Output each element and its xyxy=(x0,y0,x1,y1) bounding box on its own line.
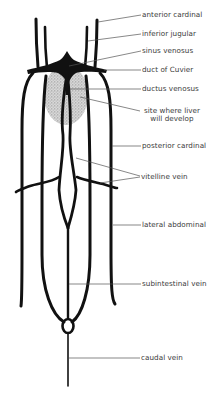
leader-sinus-venosus xyxy=(69,51,141,66)
label-liver-site-line2: will develop xyxy=(141,115,203,123)
label-liver-site: site where liver will develop xyxy=(141,107,203,123)
label-inferior-jugular: inferior jugular xyxy=(142,30,196,38)
leader-anterior-cardinal xyxy=(98,15,141,22)
label-caudal-vein: caudal vein xyxy=(141,354,183,362)
inferior-jugular-left xyxy=(45,27,47,68)
leader-vitelline-lower xyxy=(100,177,140,183)
label-sinus-venosus: sinus venosus xyxy=(142,47,193,55)
label-subintestinal-vein: subintestinal vein xyxy=(142,280,207,288)
caudal-ring xyxy=(63,319,74,333)
label-anterior-cardinal: anterior cardinal xyxy=(142,11,202,19)
label-duct-of-cuvier: duct of Cuvier xyxy=(142,66,193,74)
venous-system-diagram xyxy=(0,0,219,395)
label-ductus-venosus: ductus venosus xyxy=(142,85,199,93)
label-posterior-cardinal: posterior cardinal xyxy=(142,142,206,150)
inferior-jugular-right xyxy=(85,27,87,68)
label-vitelline-vein: vitelline vein xyxy=(141,173,188,181)
leader-vitelline-upper xyxy=(76,158,140,176)
label-lateral-abdominal: lateral abdominal xyxy=(142,221,206,229)
posterior-cardinal-right xyxy=(100,73,115,304)
anterior-cardinal-left xyxy=(36,19,38,67)
